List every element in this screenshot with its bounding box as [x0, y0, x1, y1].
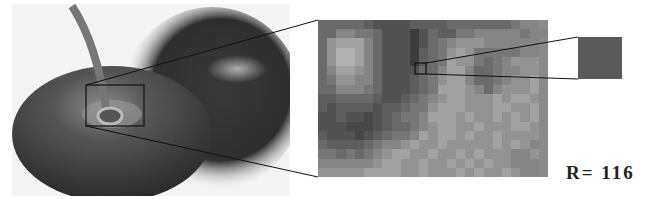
- pixel-color-swatch: [578, 37, 622, 79]
- rgb-values: R= 116 G = 87 B = 38: [566, 113, 646, 199]
- red-value: R= 116: [566, 161, 646, 185]
- zoom-connector-lines: [0, 0, 655, 199]
